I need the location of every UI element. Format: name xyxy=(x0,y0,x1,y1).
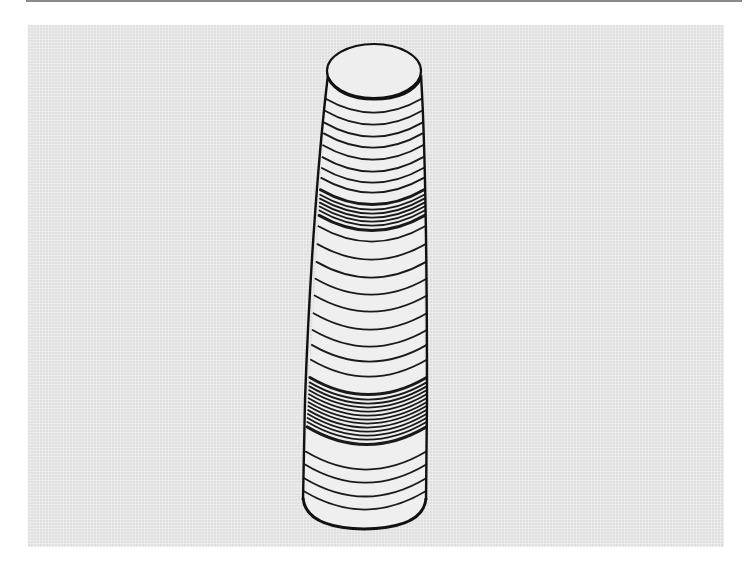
stacked-column-figure xyxy=(0,0,754,564)
